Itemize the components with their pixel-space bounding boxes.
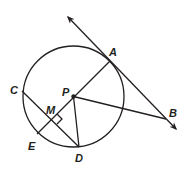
label-d: D: [75, 152, 83, 164]
label-b: B: [169, 107, 177, 119]
segment-cd: [22, 91, 79, 147]
label-m: M: [46, 104, 56, 116]
label-p: P: [62, 86, 70, 98]
segment-pd: [74, 97, 80, 148]
label-c: C: [10, 84, 19, 96]
geometry-diagram: A B C D E M P: [0, 0, 186, 170]
right-angle-marker: [57, 114, 62, 124]
label-e: E: [28, 140, 36, 152]
label-a: A: [108, 46, 117, 58]
center-point-p: [71, 94, 75, 98]
